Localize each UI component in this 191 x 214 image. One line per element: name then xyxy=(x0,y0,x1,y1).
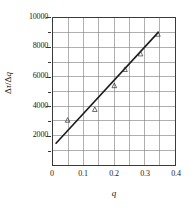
y-tick-mark-major-8000 xyxy=(46,47,51,48)
y-tick-mark-major-10000 xyxy=(46,17,51,18)
chart-figure: 10000 8000 6000 4000 2000 xyxy=(0,0,191,214)
y-axis-title-q: q xyxy=(3,72,13,77)
x-axis-title: q xyxy=(52,188,176,198)
data-point-marker xyxy=(65,118,70,123)
data-series xyxy=(53,18,175,165)
x-tick-label-0.4: 0.4 xyxy=(171,169,180,178)
fit-line xyxy=(56,32,158,143)
x-tick-label-0.3: 0.3 xyxy=(140,169,149,178)
y-tick-mark-major-4000 xyxy=(46,106,51,107)
y-tick-mark-minor-9000 xyxy=(48,32,51,33)
y-tick-mark-minor-1000 xyxy=(48,151,51,152)
y-axis-title: Δτ/Δq xyxy=(3,61,13,105)
y-tick-mark-minor-5000 xyxy=(48,92,51,93)
data-point-marker xyxy=(112,83,117,88)
y-axis-title-tau: τ xyxy=(3,85,13,88)
x-tick-label-0.1: 0.1 xyxy=(78,169,87,178)
y-tick-label-2000: 2000 xyxy=(2,131,48,139)
y-tick-mark-minor-7000 xyxy=(48,62,51,63)
data-point-marker xyxy=(92,107,97,112)
y-tick-mark-major-2000 xyxy=(46,136,51,137)
y-tick-mark-major-6000 xyxy=(46,77,51,78)
x-axis-tick-labels: 0 0.1 0.2 0.3 0.4 xyxy=(0,169,191,183)
y-tick-label-10000: 10000 xyxy=(2,13,48,21)
x-tick-label-0.2: 0.2 xyxy=(109,169,118,178)
y-axis-title-delta1: Δ xyxy=(3,88,13,94)
x-tick-label-0: 0 xyxy=(50,169,54,178)
y-tick-label-8000: 8000 xyxy=(2,42,48,50)
plot-area xyxy=(52,17,176,166)
y-axis-title-slash: / xyxy=(3,82,13,85)
y-axis-title-delta2: Δ xyxy=(3,77,13,83)
y-tick-mark-minor-3000 xyxy=(48,121,51,122)
